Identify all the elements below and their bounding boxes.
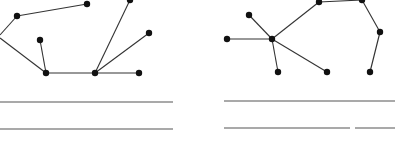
right-graph-edge [272,39,278,72]
right-graph-node [359,0,365,3]
left-graph-node [37,37,43,43]
right-graph-node [269,36,275,42]
left-graph-node [84,1,90,7]
right-graph-node [377,29,383,35]
left-graph-node [92,70,98,76]
left-graph-node [136,70,142,76]
left-graph-edge [40,40,46,73]
right-graph-node [275,69,281,75]
left-graph-edge [17,4,87,16]
right-graph-edge [272,2,319,39]
right-graph-node [367,69,373,75]
right-graph-edge [370,32,380,72]
right-graph-edge [249,15,272,39]
left-graph-node [43,70,49,76]
right-graph-edge [362,0,380,32]
left-graph-edge [95,0,130,73]
left-graph-node [14,13,20,19]
right-graph-edge [272,39,327,72]
left-graph-node [146,30,152,36]
left-graph-edge [95,33,149,73]
right-graph-edge [319,0,362,2]
left-graph-node [127,0,133,3]
right-graph-node [246,12,252,18]
left-graph-edge [0,38,46,73]
right-graph-node [324,69,330,75]
left-graph-edge [0,16,17,35]
right-graph-node [224,36,230,42]
graph-diagram-canvas [0,0,395,149]
